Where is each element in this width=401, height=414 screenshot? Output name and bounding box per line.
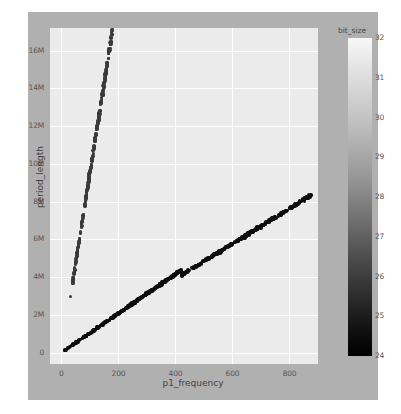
data-point bbox=[79, 230, 82, 233]
data-point bbox=[123, 308, 126, 311]
gridline-horizontal bbox=[50, 126, 318, 127]
x-tick-label: 800 bbox=[269, 369, 309, 378]
data-point bbox=[154, 287, 157, 290]
x-axis-label: p1_frequency bbox=[28, 378, 358, 388]
x-tick-label: 400 bbox=[155, 369, 195, 378]
gridline-vertical bbox=[61, 28, 62, 364]
plot-panel bbox=[50, 28, 318, 364]
data-point bbox=[194, 264, 198, 268]
data-point bbox=[188, 269, 191, 272]
data-point bbox=[129, 304, 132, 307]
colorbar-tick-label: 32 bbox=[375, 33, 401, 42]
data-point bbox=[75, 254, 79, 258]
data-point bbox=[73, 272, 76, 275]
data-point bbox=[110, 28, 114, 32]
gridline-horizontal bbox=[50, 353, 318, 354]
colorbar-tick-label: 25 bbox=[375, 311, 401, 320]
data-point bbox=[212, 254, 215, 257]
data-point bbox=[215, 251, 219, 255]
data-point bbox=[176, 272, 179, 275]
colorbar-gradient bbox=[348, 38, 372, 356]
gridline-horizontal bbox=[50, 51, 318, 52]
data-point bbox=[288, 206, 292, 210]
data-point bbox=[281, 210, 285, 214]
data-point bbox=[72, 277, 75, 280]
gridline-horizontal bbox=[50, 315, 318, 316]
data-point bbox=[182, 272, 185, 275]
gridline-horizontal bbox=[50, 202, 318, 203]
y-tick-label: 4M bbox=[4, 272, 44, 281]
data-point bbox=[69, 295, 72, 298]
gridline-horizontal bbox=[50, 277, 318, 278]
colorbar-tick-label: 24 bbox=[375, 351, 401, 360]
colorbar-tick-label: 31 bbox=[375, 73, 401, 82]
y-tick-label: 0 bbox=[4, 348, 44, 357]
data-point bbox=[102, 84, 106, 88]
gridline-horizontal bbox=[50, 239, 318, 240]
data-point bbox=[67, 346, 71, 350]
data-point bbox=[77, 240, 81, 244]
data-point bbox=[301, 198, 304, 201]
data-point bbox=[264, 223, 267, 226]
y-tick-label: 2M bbox=[4, 310, 44, 319]
x-tick-label: 200 bbox=[98, 369, 138, 378]
gridline-horizontal bbox=[50, 88, 318, 89]
data-point bbox=[271, 217, 275, 221]
colorbar-tick-label: 28 bbox=[375, 192, 401, 201]
data-point bbox=[74, 259, 78, 263]
data-point bbox=[89, 171, 92, 174]
gridline-vertical bbox=[289, 28, 290, 364]
y-tick-label: 16M bbox=[4, 46, 44, 55]
gridline-vertical bbox=[175, 28, 176, 364]
colorbar-tick-label: 30 bbox=[375, 113, 401, 122]
y-tick-label: 14M bbox=[4, 83, 44, 92]
data-point bbox=[86, 183, 90, 187]
data-point bbox=[71, 343, 75, 347]
data-point bbox=[88, 333, 91, 336]
x-tick-label: 0 bbox=[41, 369, 81, 378]
data-point bbox=[97, 114, 100, 117]
data-point bbox=[219, 250, 223, 254]
data-point bbox=[81, 216, 85, 220]
data-point bbox=[96, 125, 99, 128]
data-point bbox=[83, 204, 86, 207]
data-point bbox=[71, 281, 75, 285]
gridline-vertical bbox=[232, 28, 233, 364]
data-point bbox=[109, 40, 113, 44]
colorbar-tick-label: 29 bbox=[375, 152, 401, 161]
data-point bbox=[255, 225, 259, 229]
data-point bbox=[107, 57, 110, 60]
data-point bbox=[200, 261, 204, 265]
colorbar-tick-label: 26 bbox=[375, 272, 401, 281]
y-axis-label: period_length bbox=[35, 107, 45, 247]
figure-canvas: 0200400600800 02M4M6M8M10M12M14M16M p1_f… bbox=[28, 12, 378, 400]
colorbar-tick-label: 27 bbox=[375, 232, 401, 241]
data-point bbox=[98, 325, 102, 329]
x-tick-label: 600 bbox=[212, 369, 252, 378]
data-point bbox=[106, 320, 109, 323]
data-point bbox=[78, 238, 81, 241]
data-point bbox=[308, 194, 311, 197]
data-point bbox=[90, 164, 93, 167]
data-point bbox=[84, 198, 87, 201]
data-point bbox=[140, 295, 144, 299]
data-point bbox=[105, 69, 108, 72]
data-point bbox=[73, 268, 77, 272]
